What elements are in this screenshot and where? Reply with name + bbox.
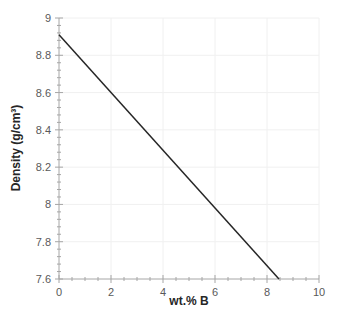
y-tick-label: 7.8 xyxy=(36,236,51,248)
y-tick-label: 8.2 xyxy=(36,161,51,173)
y-tick-label: 9 xyxy=(45,12,51,24)
x-tick-label: 8 xyxy=(264,286,270,298)
y-tick-label: 8.4 xyxy=(36,124,51,136)
x-tick-label: 6 xyxy=(212,286,218,298)
y-tick-label: 7.6 xyxy=(36,273,51,285)
x-tick-label: 0 xyxy=(56,286,62,298)
density-chart: 7.67.888.28.48.68.89 0246810 wt.% B Dens… xyxy=(0,0,341,331)
x-tick-label: 2 xyxy=(108,286,114,298)
y-axis: 7.67.888.28.48.68.89 xyxy=(36,12,63,285)
x-axis-title: wt.% B xyxy=(168,294,209,308)
y-tick-label: 8 xyxy=(45,198,51,210)
density-line xyxy=(59,35,279,279)
data-series xyxy=(59,35,279,279)
y-axis-title: Density (g/cm³) xyxy=(9,105,23,192)
x-tick-label: 4 xyxy=(160,286,166,298)
y-tick-label: 8.6 xyxy=(36,87,51,99)
x-tick-label: 10 xyxy=(313,286,325,298)
y-tick-label: 8.8 xyxy=(36,49,51,61)
gridlines xyxy=(59,18,319,279)
